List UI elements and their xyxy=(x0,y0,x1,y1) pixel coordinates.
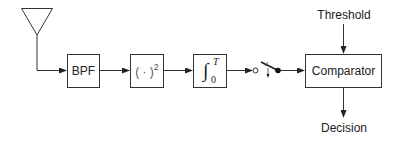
comparator-label: Comparator xyxy=(312,64,375,78)
bpf-block: BPF xyxy=(67,54,100,88)
comparator-block: Comparator xyxy=(305,54,382,88)
decision-label: Decision xyxy=(313,121,375,135)
squarer-block: ( · )2 xyxy=(130,54,164,88)
squarer-label: ( · )2 xyxy=(135,63,159,79)
threshold-label: Threshold xyxy=(313,8,375,22)
sampling-switch-icon xyxy=(253,62,281,78)
antenna-icon xyxy=(22,9,67,71)
integrator-block: ∫ T 0 xyxy=(193,54,227,88)
bpf-label: BPF xyxy=(72,64,95,78)
integral-symbol: ∫ T 0 xyxy=(194,55,226,87)
